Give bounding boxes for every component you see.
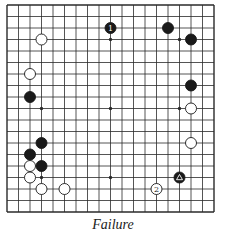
black-stone	[174, 172, 185, 183]
black-stone	[36, 138, 47, 149]
go-board: 12	[0, 0, 226, 216]
black-stone	[25, 92, 36, 103]
diagram-caption: Failure	[0, 216, 226, 234]
black-stone	[163, 23, 174, 34]
white-stone	[36, 184, 47, 195]
white-stone	[186, 138, 197, 149]
white-stone	[25, 172, 36, 183]
black-stone	[25, 149, 36, 160]
white-stone	[25, 69, 36, 80]
star-point	[178, 107, 181, 110]
black-stone: 1	[105, 23, 116, 34]
black-stone	[186, 80, 197, 91]
white-stone: 2	[151, 184, 162, 195]
move-number: 2	[154, 185, 159, 194]
black-stone	[36, 161, 47, 172]
white-stone	[36, 34, 47, 45]
white-stone	[186, 103, 197, 114]
white-stone	[25, 161, 36, 172]
star-point	[109, 38, 112, 41]
star-point	[109, 107, 112, 110]
star-point	[109, 176, 112, 179]
black-stone	[186, 34, 197, 45]
star-point	[178, 38, 181, 41]
star-point	[40, 176, 43, 179]
white-stone	[59, 184, 70, 195]
star-point	[40, 107, 43, 110]
move-number: 1	[108, 24, 113, 33]
